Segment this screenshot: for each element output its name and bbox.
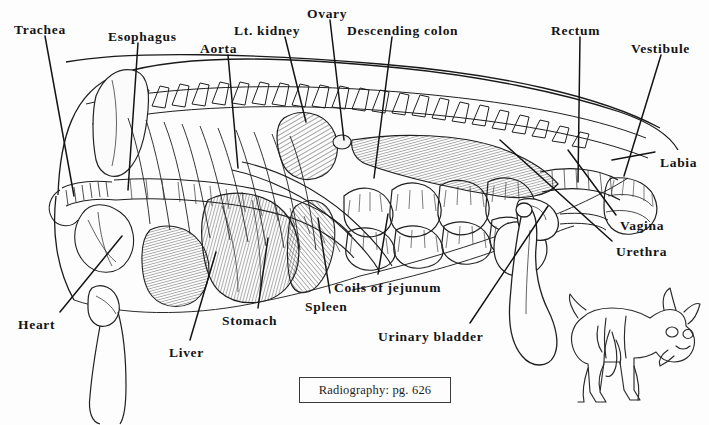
leader-labia <box>612 152 655 160</box>
radiography-reference-box: Radiography: pg. 626 <box>299 377 451 403</box>
liver-structure <box>142 226 209 307</box>
heart-structure <box>75 205 134 273</box>
anatomy-figure: Trachea Esophagus Aorta Lt. kidney Ovary… <box>0 0 709 425</box>
anatomy-illustration <box>0 0 709 425</box>
leader-rectum <box>578 37 580 182</box>
label-urinary-bladder: Urinary bladder <box>378 330 483 344</box>
label-spleen: Spleen <box>305 300 347 314</box>
dog-silhouette-inset <box>569 288 700 402</box>
kidney-structure <box>277 113 337 180</box>
label-liver: Liver <box>169 346 204 360</box>
leader-aorta <box>228 55 238 168</box>
label-vagina: Vagina <box>620 219 664 233</box>
descending-colon-structure <box>352 135 558 197</box>
vertebrae-set <box>112 82 589 148</box>
label-aorta: Aorta <box>200 42 237 56</box>
label-ovary: Ovary <box>307 7 347 21</box>
label-stomach: Stomach <box>222 314 277 328</box>
label-rectum: Rectum <box>551 24 600 38</box>
leader-lt-kidney <box>285 37 306 122</box>
label-heart: Heart <box>18 318 55 332</box>
label-esophagus: Esophagus <box>108 30 177 44</box>
radiography-reference-text: Radiography: pg. 626 <box>319 383 432 398</box>
label-descending-colon: Descending colon <box>347 24 458 38</box>
label-coils-of-jejunum: Coils of jejunum <box>334 281 441 295</box>
hindlimb-bone <box>88 286 126 424</box>
label-lt-kidney: Lt. kidney <box>234 24 300 38</box>
ovary-structure <box>333 135 351 149</box>
label-urethra: Urethra <box>616 245 667 259</box>
label-vestibule: Vestibule <box>631 42 690 56</box>
label-labia: Labia <box>660 156 697 170</box>
leader-ovary <box>330 20 344 140</box>
leader-vagina <box>568 150 616 215</box>
label-trachea: Trachea <box>14 23 66 37</box>
stomach-structure <box>202 193 299 302</box>
